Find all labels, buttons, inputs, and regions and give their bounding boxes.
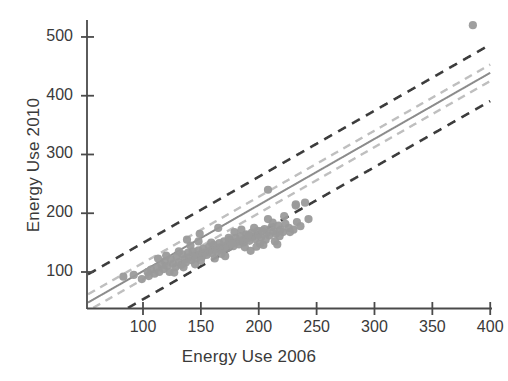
- data-point: [469, 21, 477, 29]
- data-point: [211, 254, 219, 262]
- data-point: [286, 228, 294, 236]
- data-point: [228, 240, 236, 248]
- data-point: [183, 236, 191, 244]
- data-point: [250, 224, 258, 232]
- data-point: [196, 230, 204, 238]
- data-point: [304, 215, 312, 223]
- data-point: [292, 202, 300, 210]
- x-axis-title: Energy Use 2006: [0, 347, 498, 367]
- data-point: [301, 199, 309, 207]
- data-point: [237, 226, 245, 234]
- x-tick-label: 100: [113, 318, 173, 336]
- data-point: [194, 237, 202, 245]
- data-point: [221, 252, 229, 260]
- data-point: [130, 271, 138, 279]
- data-point: [170, 268, 178, 276]
- y-tick-label: 200: [23, 203, 73, 221]
- data-point: [191, 260, 199, 268]
- data-point-group: [119, 21, 477, 283]
- x-tick-label: 150: [171, 318, 231, 336]
- data-point: [258, 227, 266, 235]
- x-tick-label: 400: [460, 318, 508, 336]
- data-point: [273, 240, 281, 248]
- data-point: [280, 212, 288, 220]
- data-point: [264, 215, 272, 223]
- data-point: [230, 228, 238, 236]
- y-tick-label: 300: [23, 144, 73, 162]
- x-tick-label: 350: [402, 318, 462, 336]
- x-tick-label: 200: [229, 318, 289, 336]
- y-tick-label: 500: [23, 27, 73, 45]
- data-point: [175, 247, 183, 255]
- y-tick-label: 400: [23, 86, 73, 104]
- data-point: [214, 224, 222, 232]
- data-point: [119, 273, 127, 281]
- data-point: [252, 243, 260, 251]
- data-point: [179, 263, 187, 271]
- data-point: [145, 272, 153, 280]
- y-tick-label: 100: [23, 262, 73, 280]
- data-point: [244, 231, 252, 239]
- x-tick-label: 250: [287, 318, 347, 336]
- data-point: [264, 186, 272, 194]
- data-point: [293, 218, 301, 226]
- data-point: [207, 239, 215, 247]
- data-point: [162, 251, 170, 259]
- data-point: [154, 254, 162, 262]
- y-axis-title: Energy Use 2010: [24, 45, 44, 285]
- plot-axes: [87, 20, 492, 309]
- x-tick-label: 300: [344, 318, 404, 336]
